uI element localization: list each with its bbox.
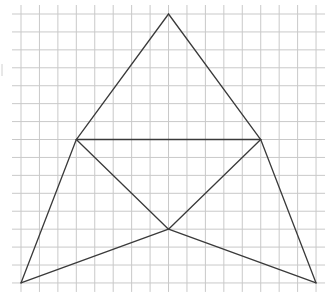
grid-lines bbox=[12, 5, 325, 292]
segment-AC bbox=[169, 14, 261, 140]
segment-AB bbox=[76, 14, 168, 140]
grid-diagram bbox=[0, 0, 333, 302]
segment-BD bbox=[76, 140, 168, 230]
segment-CD bbox=[169, 140, 261, 230]
